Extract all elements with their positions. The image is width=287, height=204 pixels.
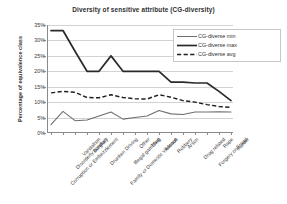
legend-line-swatch	[176, 32, 198, 41]
x-axis-tick-label: Murder	[235, 136, 251, 152]
chart-container: Diversity of sensitive attribute (CG-div…	[0, 0, 287, 204]
legend-item[interactable]: CG-diverse max	[176, 41, 278, 50]
y-axis-tick-labels: 0%5%10%15%20%25%30%35%	[22, 25, 45, 133]
x-axis-tick-labels: Corruption or EmbezzlementDisorderly con…	[47, 134, 233, 204]
legend-line-swatch	[176, 41, 198, 50]
y-axis-tick-mark	[43, 102, 46, 103]
y-axis-tick-mark	[43, 118, 46, 119]
legend-item[interactable]: CG-diverse min	[176, 32, 278, 41]
series-line-cg-diverse-min	[51, 110, 231, 124]
chart-title: Diversity of sensitive attribute (CG-div…	[0, 6, 287, 13]
legend-item[interactable]: CG-diverse avg	[176, 50, 278, 59]
y-axis-tick-mark	[43, 87, 46, 88]
chart-legend: CG-diverse minCG-diverse maxCG-diverse a…	[173, 29, 281, 62]
y-axis-tick-mark	[43, 71, 46, 72]
y-axis-tick-mark	[43, 133, 46, 134]
y-axis-tick-mark	[43, 56, 46, 57]
y-axis-tick-mark	[43, 25, 46, 26]
x-axis-tick-label: Theft	[149, 136, 161, 148]
legend-label: CG-diverse max	[198, 41, 237, 50]
y-axis-tick-mark	[43, 40, 46, 41]
legend-label: CG-diverse min	[198, 32, 235, 41]
legend-line-swatch	[176, 50, 198, 59]
legend-label: CG-diverse avg	[198, 50, 235, 59]
series-line-cg-diverse-avg	[51, 91, 231, 107]
